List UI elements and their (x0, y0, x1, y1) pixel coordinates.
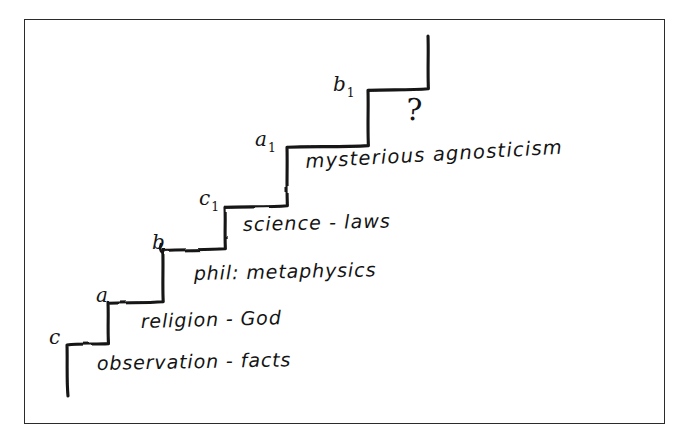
step-label-a1-base: a (255, 127, 267, 151)
step-label-c: c (49, 325, 60, 349)
step-label-b: b (152, 230, 165, 254)
step-label-b1-base: b (333, 72, 346, 96)
step-label-c1-base: c (199, 186, 210, 210)
step-label-a1-sub: 1 (268, 140, 276, 155)
step-label-c1-sub: 1 (211, 199, 219, 214)
step-label-b1: b1 (333, 72, 354, 96)
step-label-c-base: c (49, 325, 60, 349)
step-label-a: a (96, 283, 108, 307)
step-label-b1-sub: 1 (347, 85, 355, 100)
sketch-page: c a b c1 a1 b1 ? observation - facts rel… (0, 0, 681, 444)
tier-label-observation: observation - facts (97, 348, 292, 374)
step-label-a1: a1 (255, 127, 275, 151)
question-mark: ? (405, 91, 423, 127)
step-label-a-base: a (96, 283, 108, 307)
tier-label-phil: phil: metaphysics (194, 258, 377, 284)
step-label-c1: c1 (199, 186, 218, 210)
step-label-b-base: b (152, 230, 165, 254)
tier-label-religion: religion - God (140, 306, 282, 332)
tier-label-science: science - laws (242, 209, 391, 235)
